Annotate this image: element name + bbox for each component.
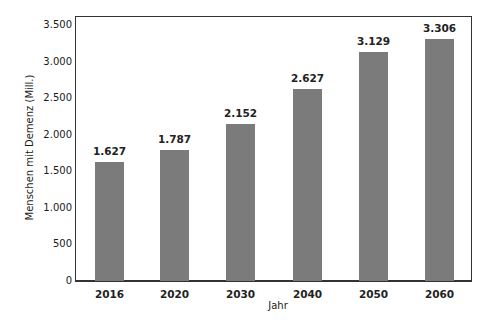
y-tick-label: 3.500 [43,19,72,31]
x-tick-label: 2050 [344,288,404,300]
y-tick-label: 1.000 [43,202,72,214]
value-label: 1.787 [145,133,205,145]
bar-2020 [160,150,189,281]
y-axis-label: Menschen mit Demenz (Mill.) [24,48,35,248]
x-tick-label: 2020 [145,288,205,300]
y-tick-label: 500 [53,238,72,250]
value-label: 2.627 [278,72,338,84]
bar-2030 [226,124,255,281]
x-tick-label: 2040 [278,288,338,300]
bar-chart: 05001.0001.5002.0002.5003.0003.500 1.627… [0,0,494,323]
x-axis-line [75,280,472,282]
value-label: 3.129 [344,35,404,47]
y-tick-label: 2.000 [43,129,72,141]
bar-2040 [293,89,322,281]
x-axis-label: Jahr [258,300,298,311]
bar-2050 [359,52,388,281]
y-tick-label: 3.000 [43,56,72,68]
bar-2060 [425,39,454,281]
value-label: 2.152 [211,107,271,119]
y-tick-label: 1.500 [43,165,72,177]
x-tick-label: 2016 [80,288,140,300]
x-tick-label: 2030 [211,288,271,300]
y-tick-label: 0 [66,275,72,287]
x-tick-label: 2060 [410,288,470,300]
bar-2016 [95,162,124,281]
y-tick-label: 2.500 [43,92,72,104]
value-label: 1.627 [80,145,140,157]
value-label: 3.306 [410,22,470,34]
